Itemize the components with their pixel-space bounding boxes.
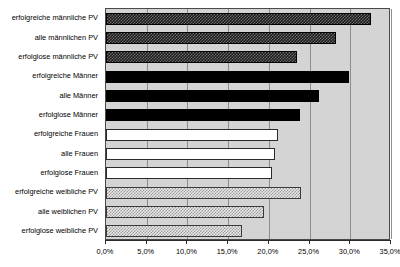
bar-fill bbox=[106, 206, 264, 218]
bar-3 bbox=[106, 51, 297, 63]
x-tick-label-1: 5,0% bbox=[137, 247, 154, 256]
category-label-12: erfolglose weibliche PV bbox=[22, 225, 98, 236]
bar-fill bbox=[106, 187, 301, 199]
category-label-8: alle Frauen bbox=[61, 148, 98, 159]
plot-area bbox=[105, 8, 390, 240]
category-label-1: erfolgreiche männliche PV bbox=[12, 12, 98, 23]
category-label-5: alle Männer bbox=[59, 90, 98, 101]
bar-chart: erfolgreiche männliche PValle männlichen… bbox=[0, 0, 400, 267]
x-tick-4 bbox=[268, 240, 269, 244]
x-tick-2 bbox=[186, 240, 187, 244]
bar-fill bbox=[106, 109, 300, 121]
category-label-7: erfolgreiche Frauen bbox=[34, 128, 98, 139]
bar-fill bbox=[106, 71, 349, 83]
category-label-9: erfolglose Frauen bbox=[40, 167, 98, 178]
bar-fill bbox=[106, 167, 272, 179]
bar-1 bbox=[106, 13, 371, 25]
x-tick-label-0: 0,0% bbox=[97, 247, 114, 256]
x-tick-1 bbox=[146, 240, 147, 244]
x-tick-7 bbox=[390, 240, 391, 244]
x-axis-line bbox=[105, 240, 390, 241]
bar-10 bbox=[106, 187, 301, 199]
x-tick-label-4: 20,0% bbox=[257, 247, 278, 256]
category-label-10: erfolgreiche weibliche PV bbox=[15, 186, 98, 197]
category-label-11: alle weiblichen PV bbox=[38, 206, 98, 217]
bar-fill bbox=[106, 129, 278, 141]
x-tick-label-5: 25,0% bbox=[298, 247, 319, 256]
bar-7 bbox=[106, 129, 278, 141]
category-label-3: erfolglose männliche PV bbox=[18, 51, 98, 62]
bar-fill bbox=[106, 13, 371, 25]
bar-fill bbox=[106, 225, 242, 237]
x-tick-label-2: 10,0% bbox=[176, 247, 197, 256]
bar-8 bbox=[106, 148, 275, 160]
x-tick-label-6: 30,0% bbox=[339, 247, 360, 256]
x-tick-6 bbox=[349, 240, 350, 244]
category-axis-labels: erfolgreiche männliche PValle männlichen… bbox=[0, 8, 102, 240]
bar-2 bbox=[106, 32, 336, 44]
bar-fill bbox=[106, 90, 319, 102]
bar-5 bbox=[106, 90, 319, 102]
bar-4 bbox=[106, 71, 349, 83]
bar-6 bbox=[106, 109, 300, 121]
gridline-300 bbox=[350, 9, 351, 239]
bar-11 bbox=[106, 206, 264, 218]
category-label-2: alle männlichen PV bbox=[35, 32, 98, 43]
gridline-350 bbox=[391, 9, 392, 239]
bar-fill bbox=[106, 148, 275, 160]
bar-9 bbox=[106, 167, 272, 179]
category-label-6: erfolglose Männer bbox=[39, 109, 98, 120]
x-tick-label-7: 35,0% bbox=[380, 247, 400, 256]
x-tick-5 bbox=[309, 240, 310, 244]
bar-fill bbox=[106, 32, 336, 44]
bar-fill bbox=[106, 51, 297, 63]
x-tick-3 bbox=[227, 240, 228, 244]
x-tick-0 bbox=[105, 240, 106, 244]
category-label-4: erfolgreiche Männer bbox=[32, 70, 98, 81]
bar-12 bbox=[106, 225, 242, 237]
x-tick-label-3: 15,0% bbox=[217, 247, 238, 256]
